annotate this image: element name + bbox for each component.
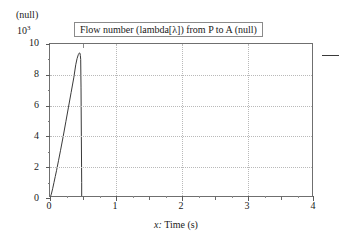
y-tick-mark-6	[46, 106, 50, 107]
x-tick-mark-2	[182, 196, 183, 201]
x-tick-mark-1-5	[149, 196, 150, 200]
y-tick-label-6: 6	[19, 100, 39, 110]
x-tick-mark-3-75	[298, 196, 299, 198]
x-axis-title-prefix: x:	[154, 219, 162, 230]
x-tick-mark-2-75	[232, 196, 233, 198]
x-tick-label-2: 2	[171, 201, 191, 211]
x-axis-title-text: Time (s)	[164, 219, 198, 230]
x-tick-mark-1-75	[166, 196, 167, 198]
x-tick-label-0: 0	[39, 201, 59, 211]
x-tick-mark-1	[116, 196, 117, 201]
y-tick-mark-7	[48, 90, 50, 91]
legend-line-swatch	[322, 55, 339, 56]
y-tick-mark-2	[46, 167, 50, 168]
x-tick-mark-1-25	[133, 196, 134, 198]
gridline-x-2	[182, 44, 183, 196]
chart-canvas: (null) 103 Flow number (lambda[λ]) from …	[0, 0, 352, 243]
plot-inner	[50, 44, 312, 196]
gridline-y-8	[50, 75, 312, 76]
x-axis-title: x: Time (s)	[0, 219, 352, 230]
x-tick-mark-0-25	[67, 196, 68, 198]
data-series-line	[50, 44, 312, 196]
y-tick-mark-1	[48, 183, 50, 184]
plot-area	[49, 43, 313, 197]
y-axis-exponent-label: 103	[17, 25, 31, 36]
x-tick-mark-0-75	[100, 196, 101, 198]
y-tick-label-0: 0	[19, 193, 39, 203]
y-axis-unit-label: (null)	[16, 9, 38, 20]
x-tick-label-1: 1	[105, 201, 125, 211]
gridline-y-2	[50, 167, 312, 168]
x-tick-mark-0-5	[83, 196, 84, 200]
y-tick-mark-10	[46, 44, 50, 45]
x-tick-mark-0	[50, 196, 51, 201]
y-tick-label-4: 4	[19, 131, 39, 141]
y-tick-mark-8	[46, 75, 50, 76]
chart-title: Flow number (lambda[λ]) from P to A (nul…	[74, 22, 263, 37]
gridline-y-4	[50, 136, 312, 137]
y-axis-exponent-power: 3	[27, 24, 31, 32]
x-tick-mark-3-5	[281, 196, 282, 200]
gridline-x-3	[248, 44, 249, 196]
x-tick-mark-2-25	[199, 196, 200, 198]
y-tick-mark-4	[46, 136, 50, 137]
y-tick-mark-9	[48, 59, 50, 60]
gridline-y-6	[50, 106, 312, 107]
x-tick-label-4: 4	[303, 201, 323, 211]
x-tick-mark-2-5	[215, 196, 216, 200]
x-tick-mark-3-25	[265, 196, 266, 198]
chart-title-text: Flow number (lambda[λ]) from P to A (nul…	[80, 25, 257, 35]
gridline-x-1	[116, 44, 117, 196]
x-tick-mark-4	[313, 196, 314, 201]
x-minor-tick-up-0-5	[83, 44, 84, 48]
y-tick-label-10: 10	[19, 38, 39, 48]
x-tick-label-3: 3	[237, 201, 257, 211]
y-tick-mark-3	[48, 152, 50, 153]
y-tick-label-2: 2	[19, 162, 39, 172]
x-tick-mark-3	[248, 196, 249, 201]
y-axis-exponent-base: 10	[17, 25, 27, 36]
y-tick-mark-5	[48, 121, 50, 122]
y-tick-label-8: 8	[19, 69, 39, 79]
